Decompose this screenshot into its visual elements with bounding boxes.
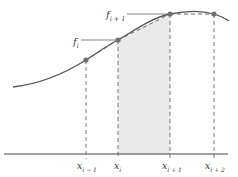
point-x-i-minus-1 [83,57,88,62]
trapezoid-diagram: fi fi + 1 xi − 1 xi xi + 1 xi + 2 [0,0,238,177]
label-f-i: fi [72,36,79,50]
tick-label-x-i-minus-1: xi − 1 [77,160,97,173]
point-x-i-plus-2 [211,11,216,16]
point-x-i [115,37,120,42]
tick-label-x-i-plus-1: xi + 1 [162,160,182,173]
tick-label-x-i-plus-2: xi + 2 [205,160,225,173]
point-x-i-plus-1 [167,11,172,16]
label-f-i-plus-1: fi + 1 [105,9,126,23]
tick-label-x-i: xi [114,160,121,173]
